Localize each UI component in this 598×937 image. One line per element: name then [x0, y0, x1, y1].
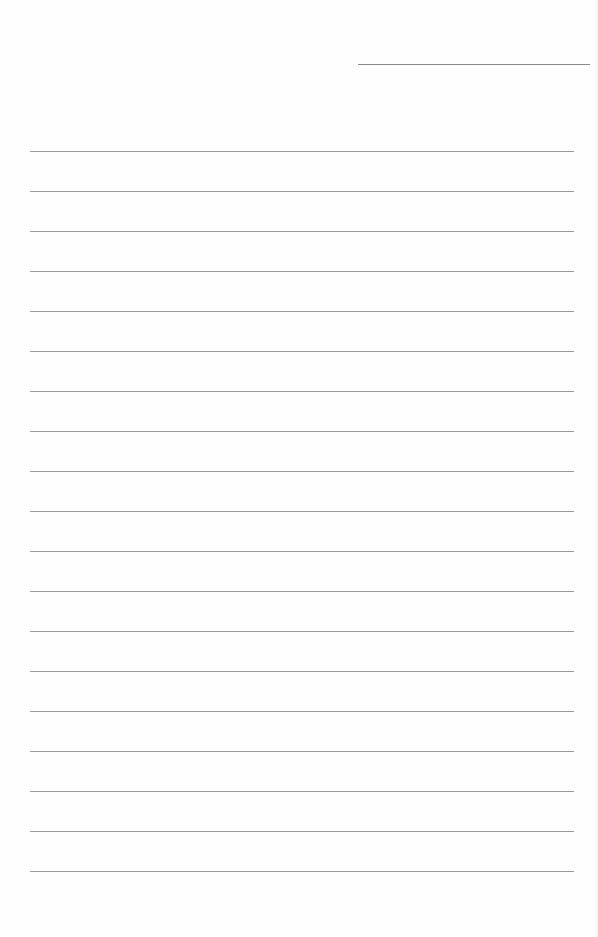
ruled-line [30, 191, 574, 192]
ruled-line [30, 431, 574, 432]
ruled-line [30, 631, 574, 632]
lined-paper-page [0, 0, 598, 937]
ruled-line [30, 151, 574, 152]
ruled-line [30, 591, 574, 592]
ruled-line [30, 871, 574, 872]
ruled-line [30, 751, 574, 752]
ruled-line [30, 831, 574, 832]
header-date-line [358, 64, 590, 65]
ruled-line [30, 391, 574, 392]
ruled-line [30, 231, 574, 232]
ruled-line [30, 471, 574, 472]
ruled-line [30, 671, 574, 672]
ruled-line [30, 311, 574, 312]
ruled-line [30, 551, 574, 552]
ruled-line [30, 511, 574, 512]
ruled-line [30, 791, 574, 792]
ruled-line [30, 711, 574, 712]
page-edge-shadow [594, 0, 598, 937]
ruled-line [30, 271, 574, 272]
ruled-line [30, 351, 574, 352]
